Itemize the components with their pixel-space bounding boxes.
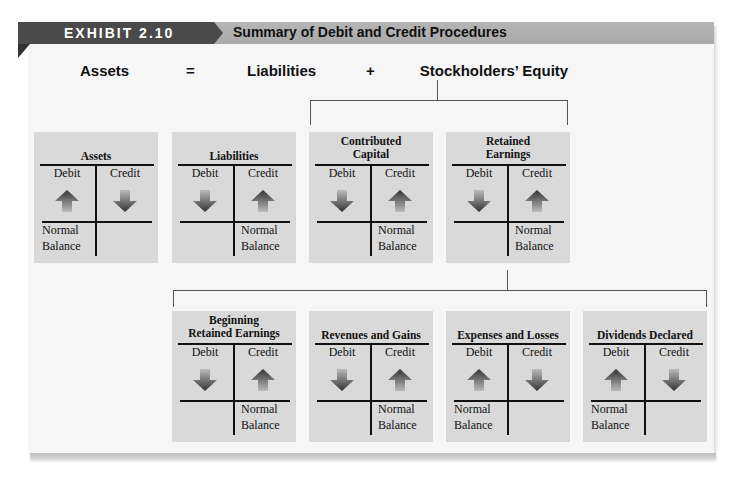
re-connector-stem bbox=[507, 270, 508, 290]
balance-text: Balance bbox=[454, 418, 493, 432]
t-account-title-line1: Beginning bbox=[172, 314, 296, 327]
arrow-down-icon bbox=[113, 190, 137, 212]
t-account-title: Retained Earnings bbox=[172, 327, 296, 340]
normal-text: Normal bbox=[378, 402, 415, 416]
t-account-liabilities: Liabilities Debit Credit NormalBalance bbox=[172, 132, 296, 263]
equation-assets: Assets bbox=[80, 62, 129, 79]
normal-balance-label: NormalBalance bbox=[241, 222, 280, 254]
re-connector-bar bbox=[173, 290, 707, 291]
equation-equals: = bbox=[186, 62, 195, 79]
arrow-down-icon bbox=[193, 190, 217, 212]
t-account-title: Revenues and Gains bbox=[309, 329, 433, 342]
arrow-up-icon bbox=[388, 369, 412, 391]
t-account-title: Liabilities bbox=[172, 150, 296, 163]
normal-text: Normal bbox=[454, 402, 491, 416]
panel-bottom-bar bbox=[30, 453, 716, 459]
credit-label: Credit bbox=[236, 345, 290, 360]
debit-label: Debit bbox=[452, 166, 506, 181]
t-account-title-line1: Retained bbox=[446, 135, 570, 148]
t-account-retained-earnings: RetainedEarnings Debit Credit NormalBala… bbox=[446, 132, 570, 263]
arrow-down-icon bbox=[467, 190, 491, 212]
arrow-down-icon bbox=[193, 369, 217, 391]
balance-text: Balance bbox=[241, 239, 280, 253]
balance-text: Balance bbox=[241, 418, 280, 432]
balance-text: Balance bbox=[591, 418, 630, 432]
arrow-down-icon bbox=[330, 190, 354, 212]
debit-label: Debit bbox=[315, 166, 369, 181]
t-account-divider bbox=[507, 343, 509, 435]
arrow-down-icon bbox=[662, 369, 686, 391]
arrow-down-icon bbox=[525, 369, 549, 391]
t-account-dividends-declared: Dividends Declared Debit Credit NormalBa… bbox=[583, 311, 707, 442]
arrow-up-icon bbox=[55, 190, 79, 212]
t-account-divider bbox=[370, 164, 372, 256]
normal-balance-label: NormalBalance bbox=[515, 222, 554, 254]
normal-balance-label: NormalBalance bbox=[591, 401, 630, 433]
arrow-up-icon bbox=[388, 190, 412, 212]
equation-liabilities: Liabilities bbox=[247, 62, 316, 79]
normal-text: Normal bbox=[42, 223, 79, 237]
credit-label: Credit bbox=[647, 345, 701, 360]
credit-label: Credit bbox=[373, 166, 427, 181]
balance-text: Balance bbox=[378, 239, 417, 253]
t-account-title: Earnings bbox=[446, 148, 570, 161]
credit-label: Credit bbox=[373, 345, 427, 360]
debit-label: Debit bbox=[178, 166, 232, 181]
equity-connector-bar bbox=[310, 100, 568, 101]
normal-text: Normal bbox=[378, 223, 415, 237]
balance-text: Balance bbox=[378, 418, 417, 432]
re-connector-right bbox=[706, 290, 707, 307]
t-account-divider bbox=[95, 164, 97, 256]
credit-label: Credit bbox=[510, 345, 564, 360]
credit-label: Credit bbox=[98, 166, 152, 181]
t-account-divider bbox=[507, 164, 509, 256]
debit-label: Debit bbox=[315, 345, 369, 360]
normal-balance-label: NormalBalance bbox=[42, 222, 81, 254]
equation-equity: Stockholders’ Equity bbox=[374, 62, 614, 79]
normal-text: Normal bbox=[515, 223, 552, 237]
arrow-up-icon bbox=[251, 190, 275, 212]
t-account-expenses-and-losses: Expenses and Losses Debit Credit NormalB… bbox=[446, 311, 570, 442]
t-account-title: Assets bbox=[34, 150, 158, 163]
normal-text: Normal bbox=[241, 402, 278, 416]
credit-label: Credit bbox=[236, 166, 290, 181]
normal-balance-label: NormalBalance bbox=[378, 222, 417, 254]
t-account-divider bbox=[233, 164, 235, 256]
t-account-title: Expenses and Losses bbox=[446, 329, 570, 342]
credit-label: Credit bbox=[510, 166, 564, 181]
balance-text: Balance bbox=[515, 239, 554, 253]
normal-balance-label: NormalBalance bbox=[378, 401, 417, 433]
arrow-down-icon bbox=[330, 369, 354, 391]
t-account-divider bbox=[233, 343, 235, 435]
arrow-up-icon bbox=[251, 369, 275, 391]
t-account-assets: Assets Debit Credit NormalBalance bbox=[34, 132, 158, 263]
normal-balance-label: NormalBalance bbox=[241, 401, 280, 433]
equity-connector-stem bbox=[437, 80, 438, 100]
t-account-revenues-and-gains: Revenues and Gains Debit Credit NormalBa… bbox=[309, 311, 433, 442]
exhibit-title: Summary of Debit and Credit Procedures bbox=[233, 24, 507, 40]
equity-connector-right bbox=[567, 100, 568, 125]
normal-text: Normal bbox=[591, 402, 628, 416]
t-account-beginning-retained-earnings: BeginningRetained Earnings Debit Credit … bbox=[172, 311, 296, 442]
exhibit-tab-fold bbox=[18, 44, 30, 58]
debit-label: Debit bbox=[452, 345, 506, 360]
arrow-up-icon bbox=[604, 369, 628, 391]
debit-label: Debit bbox=[178, 345, 232, 360]
exhibit-label: EXHIBIT 2.10 bbox=[64, 25, 174, 41]
arrow-up-icon bbox=[467, 369, 491, 391]
re-connector-left bbox=[173, 290, 174, 307]
t-account-contributed-capital: ContributedCapital Debit Credit NormalBa… bbox=[309, 132, 433, 263]
debit-label: Debit bbox=[40, 166, 94, 181]
t-account-title: Dividends Declared bbox=[583, 329, 707, 342]
exhibit-tab-arrow bbox=[214, 22, 223, 44]
t-account-title: Capital bbox=[309, 148, 433, 161]
normal-text: Normal bbox=[241, 223, 278, 237]
arrow-up-icon bbox=[525, 190, 549, 212]
normal-balance-label: NormalBalance bbox=[454, 401, 493, 433]
balance-text: Balance bbox=[42, 239, 81, 253]
t-account-divider bbox=[370, 343, 372, 435]
debit-label: Debit bbox=[589, 345, 643, 360]
t-account-title-line1: Contributed bbox=[309, 135, 433, 148]
panel-shadow bbox=[714, 26, 718, 454]
equity-connector-left bbox=[310, 100, 311, 125]
